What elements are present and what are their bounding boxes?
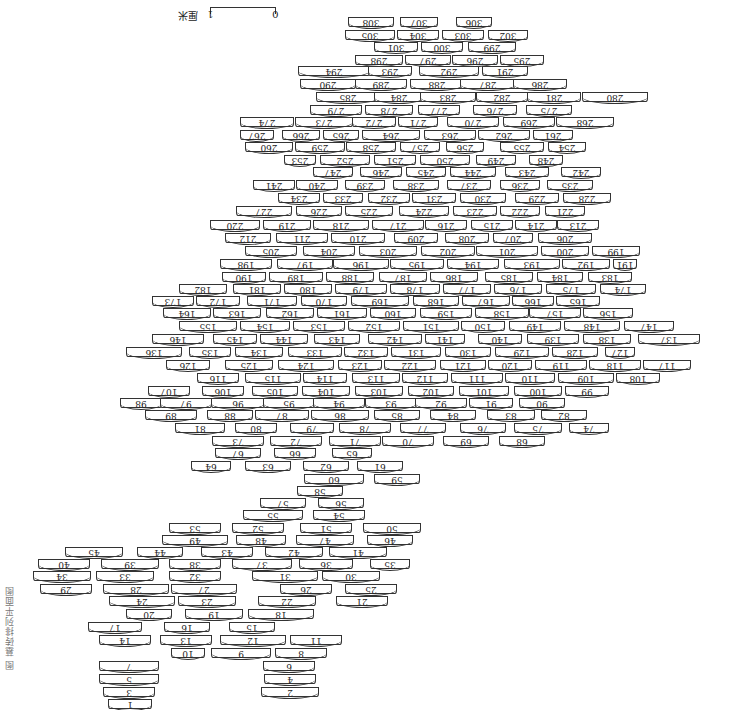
brick: 221 bbox=[545, 206, 585, 216]
brick: 21 bbox=[336, 596, 388, 606]
brick-number: 70 bbox=[383, 436, 433, 447]
brick: 254 bbox=[548, 142, 586, 152]
brick-number: 124 bbox=[279, 360, 333, 371]
brick-number: 161 bbox=[318, 308, 366, 319]
brick-number: 61 bbox=[358, 461, 402, 472]
brick: 187 bbox=[379, 272, 427, 282]
brick-number: 25 bbox=[346, 584, 396, 595]
brick: 144 bbox=[260, 334, 308, 344]
brick-number: 172 bbox=[197, 296, 239, 307]
brick-number: 294 bbox=[299, 66, 369, 77]
brick: 60 bbox=[304, 474, 364, 484]
brick-number: 265 bbox=[324, 130, 358, 141]
brick: 277 bbox=[418, 105, 460, 115]
brick-number: 148 bbox=[565, 321, 619, 332]
brick: 18 bbox=[248, 609, 314, 619]
brick-number: 304 bbox=[398, 30, 438, 41]
brick-number: 33 bbox=[97, 571, 153, 582]
brick: 114 bbox=[303, 373, 347, 383]
brick-number: 106 bbox=[203, 386, 243, 397]
brick-number: 86 bbox=[312, 410, 368, 421]
brick: 161 bbox=[317, 308, 367, 318]
brick-number: 186 bbox=[431, 272, 477, 283]
brick: 306 bbox=[456, 17, 492, 27]
brick: 70 bbox=[382, 436, 434, 446]
brick: 208 bbox=[445, 233, 489, 243]
scale-start-label: 0 bbox=[272, 9, 278, 20]
brick-number: 151 bbox=[404, 321, 458, 332]
brick: 86 bbox=[311, 410, 369, 420]
brick: 105 bbox=[252, 386, 298, 396]
brick: 150 bbox=[461, 321, 505, 331]
brick-number: 146 bbox=[153, 334, 203, 345]
brick: 53 bbox=[169, 523, 221, 533]
brick: 224 bbox=[399, 206, 449, 216]
brick: 179 bbox=[335, 284, 387, 294]
brick-number: 219 bbox=[264, 220, 310, 231]
brick: 205 bbox=[245, 246, 297, 256]
brick-number: 270 bbox=[448, 117, 498, 128]
brick: 112 bbox=[402, 373, 448, 383]
brick-number: 296 bbox=[453, 55, 497, 66]
brick-number: 215 bbox=[472, 220, 512, 231]
brick: 173 bbox=[152, 296, 194, 306]
brick-number: 63 bbox=[246, 461, 290, 472]
brick-number: 284 bbox=[375, 92, 423, 103]
brick: 210 bbox=[331, 233, 385, 243]
brick: 246 bbox=[360, 167, 402, 177]
brick-number: 176 bbox=[495, 284, 541, 295]
brick: 171 bbox=[247, 296, 297, 306]
brick: 138 bbox=[583, 334, 631, 344]
brick-number: 231 bbox=[413, 193, 455, 204]
brick-number: 260 bbox=[246, 142, 292, 153]
brick: 67 bbox=[215, 448, 261, 458]
brick-number: 84 bbox=[431, 410, 475, 421]
brick: 251 bbox=[374, 155, 416, 165]
brick-number: 43 bbox=[202, 547, 252, 558]
brick: 279 bbox=[310, 105, 362, 115]
brick-number: 31 bbox=[253, 571, 317, 582]
brick-number: 308 bbox=[349, 17, 393, 28]
brick-number: 111 bbox=[452, 373, 502, 384]
brick: 209 bbox=[394, 233, 438, 243]
brick: 57 bbox=[260, 498, 306, 508]
brick: 38 bbox=[169, 559, 221, 569]
brick: 238 bbox=[393, 180, 439, 190]
brick-number: 173 bbox=[153, 296, 193, 307]
brick: 55 bbox=[243, 510, 303, 520]
brick: 256 bbox=[446, 142, 484, 152]
brick-number: 109 bbox=[559, 373, 613, 384]
brick: 274 bbox=[240, 117, 294, 127]
brick: 78 bbox=[339, 423, 391, 433]
brick-number: 200 bbox=[542, 246, 588, 257]
brick-number: 272 bbox=[353, 117, 395, 128]
brick: 160 bbox=[370, 308, 416, 318]
brick-number: 58 bbox=[298, 486, 342, 497]
brick: 64 bbox=[191, 461, 231, 471]
brick: 143 bbox=[314, 334, 360, 344]
brick-number: 83 bbox=[488, 410, 534, 421]
brick-number: 220 bbox=[211, 220, 259, 231]
brick: 267 bbox=[240, 130, 274, 140]
brick: 165 bbox=[556, 296, 600, 306]
brick: 131 bbox=[391, 347, 441, 357]
brick-number: 66 bbox=[275, 448, 315, 459]
brick-number: 202 bbox=[422, 246, 474, 257]
brick-number: 68 bbox=[500, 436, 544, 447]
brick-number: 82 bbox=[542, 410, 586, 421]
brick-number: 55 bbox=[244, 510, 302, 521]
brick: 75 bbox=[514, 423, 562, 433]
brick-number: 138 bbox=[584, 334, 630, 345]
brick-number: 306 bbox=[457, 17, 491, 28]
brick-number: 3 bbox=[104, 687, 154, 698]
brick: 106 bbox=[202, 386, 244, 396]
brick: 40 bbox=[38, 559, 90, 569]
brick: 4 bbox=[264, 674, 316, 684]
brick: 248 bbox=[529, 155, 563, 165]
brick: 99 bbox=[565, 386, 609, 396]
brick: 240 bbox=[296, 180, 338, 190]
brick: 212 bbox=[225, 233, 271, 243]
brick-number: 293 bbox=[369, 66, 411, 77]
brick-number: 117 bbox=[644, 360, 690, 371]
brick: 132 bbox=[344, 347, 388, 357]
